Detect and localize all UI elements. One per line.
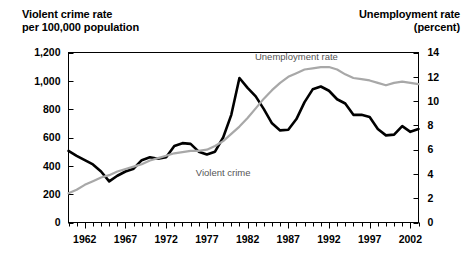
left-axis-tick-labels: 02004006008001,0001,200 xyxy=(34,46,60,228)
right-tick-label: 0 xyxy=(428,216,434,228)
left-tick-label: 1,000 xyxy=(34,75,60,87)
left-tick-label: 800 xyxy=(43,103,61,115)
x-tick-label: 1982 xyxy=(236,233,260,245)
x-axis-tick-labels: 196219671972197719821987199219972002 xyxy=(73,233,422,245)
x-tick-label: 1992 xyxy=(317,233,341,245)
right-axis-tick-labels: 02468101214 xyxy=(428,46,440,228)
chart-container: Violent crime rate per 100,000 populatio… xyxy=(0,0,472,262)
right-tick-label: 10 xyxy=(428,95,440,107)
x-tick-label: 1977 xyxy=(195,233,219,245)
x-axis-tickmarks xyxy=(70,223,420,229)
left-tick-label: 600 xyxy=(43,131,61,143)
chart-plot: 02004006008001,0001,200 02468101214 1962… xyxy=(0,0,472,262)
x-tick-label: 2002 xyxy=(399,233,423,245)
x-tick-label: 1972 xyxy=(154,233,178,245)
right-axis-tickmarks xyxy=(414,54,419,224)
annotation-unemployment-rate: Unemployment rate xyxy=(255,51,338,62)
plot-frame xyxy=(69,53,419,223)
annotation-violent-crime: Violent crime xyxy=(196,167,251,178)
right-tick-label: 2 xyxy=(428,192,434,204)
right-tick-label: 8 xyxy=(428,119,434,131)
right-tick-label: 14 xyxy=(428,46,440,58)
x-tick-label: 1997 xyxy=(358,233,382,245)
x-tick-label: 1967 xyxy=(114,233,138,245)
x-tick-label: 1962 xyxy=(73,233,97,245)
left-tick-label: 0 xyxy=(55,216,61,228)
left-tick-label: 400 xyxy=(43,160,61,172)
left-axis-tickmarks xyxy=(69,54,74,224)
left-tick-label: 200 xyxy=(43,188,61,200)
right-tick-label: 12 xyxy=(428,71,440,83)
right-tick-label: 6 xyxy=(428,143,434,155)
left-tick-label: 1,200 xyxy=(34,46,60,58)
x-tick-label: 1987 xyxy=(277,233,301,245)
right-tick-label: 4 xyxy=(428,168,434,180)
